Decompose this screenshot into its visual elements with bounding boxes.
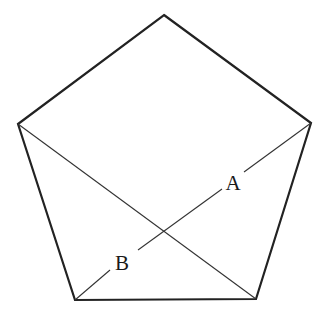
pentagon-diagram: A B <box>0 0 324 317</box>
diagonal-left-to-bottom-right <box>18 124 256 299</box>
label-a: A <box>225 171 241 195</box>
diagonal-right-segment-3 <box>75 270 110 300</box>
diagonal-right-segment-2 <box>138 189 222 250</box>
label-b: B <box>115 251 129 275</box>
diagonal-right-segment-1 <box>244 123 311 172</box>
pentagon-outline <box>18 15 311 300</box>
